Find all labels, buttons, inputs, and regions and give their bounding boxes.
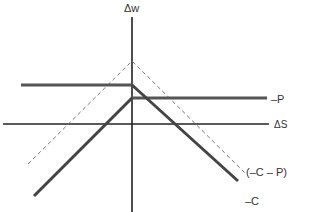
label-minus-c: –C [245,196,259,207]
diagram-canvas [0,0,313,212]
label-minus-c-minus-p: (–C – P) [246,167,287,178]
y-axis-label: Δw [124,3,139,14]
label-minus-p: –P [271,94,284,105]
x-axis-label: ΔS [274,120,287,130]
curve-minus-c-left-arm [34,98,132,196]
